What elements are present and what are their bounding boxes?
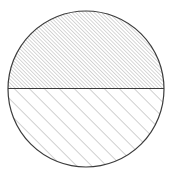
hatched-circle-diagram: Hatched circle divided by a horizontal d…: [0, 0, 173, 178]
figure-container: Hatched circle divided by a horizontal d…: [0, 0, 173, 178]
